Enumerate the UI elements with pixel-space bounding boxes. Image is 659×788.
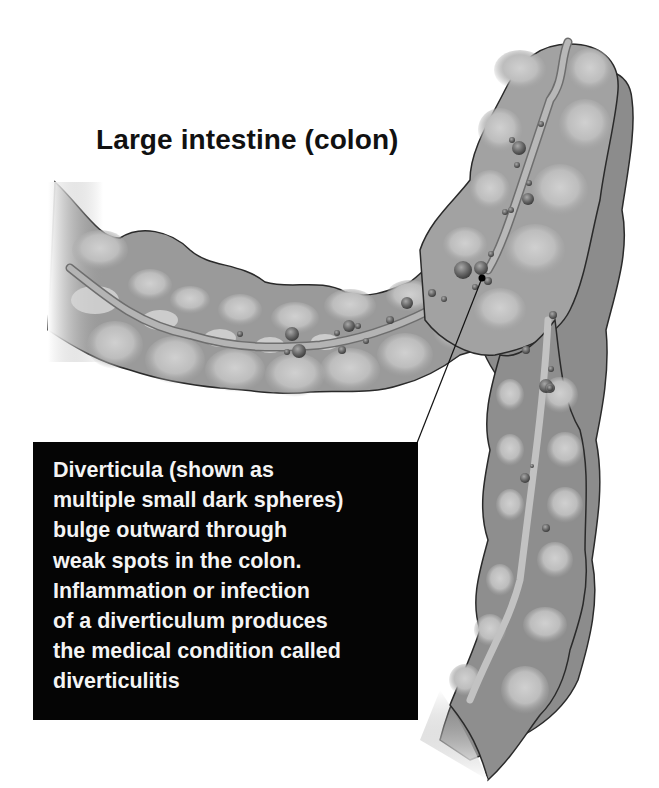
callout-line: of a diverticulum produces: [53, 606, 408, 636]
diagram-title: Large intestine (colon): [96, 124, 399, 156]
callout-line: weak spots in the colon.: [53, 546, 408, 576]
callout-box: Diverticula (shown as multiple small dar…: [33, 442, 418, 720]
callout-line: Inflammation or infection: [53, 576, 408, 606]
leader-pointer-dot: [479, 275, 486, 282]
callout-line: multiple small dark spheres): [53, 485, 408, 515]
descending-colon-detail: [420, 320, 586, 780]
callout-line: the medical condition called: [53, 636, 408, 666]
callout-line: diverticulitis: [53, 666, 408, 696]
callout-line: Diverticula (shown as: [53, 455, 408, 485]
callout-line: bulge outward through: [53, 515, 408, 545]
